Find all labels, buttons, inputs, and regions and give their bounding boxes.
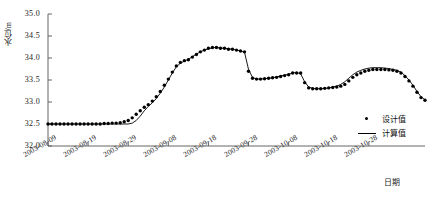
legend: 设计值 计算值	[356, 112, 428, 142]
legend-label-calculated: 计算值	[382, 127, 406, 138]
legend-label-design: 设计值	[382, 113, 406, 124]
legend-item-calculated: 计算值	[356, 126, 428, 140]
water-level-chart: 水位/m 日期 35.034.534.033.533.032.532.0 200…	[0, 0, 433, 203]
plot-area	[0, 0, 433, 203]
axis-ticks	[48, 14, 369, 146]
legend-dot-icon	[365, 117, 368, 120]
legend-line-icon	[358, 133, 376, 134]
legend-item-design: 设计值	[356, 112, 428, 126]
